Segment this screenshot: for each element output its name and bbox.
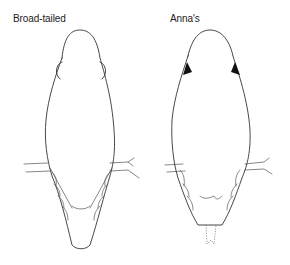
rump-line-left	[72, 206, 90, 209]
hummingbird-comparison-drawing	[0, 0, 290, 265]
broad-tailed-bird	[24, 30, 139, 249]
tail-dashed	[206, 225, 216, 244]
wing-left-feathers	[50, 168, 72, 220]
annas-bird	[165, 30, 272, 244]
shoulder-mark-right	[231, 62, 240, 75]
wing-right-feathers	[90, 168, 112, 220]
body-outline-left	[45, 30, 114, 249]
wing-feathers-right-bird	[180, 170, 240, 210]
shoulder-left-b	[100, 62, 106, 79]
rump-line-right	[200, 196, 222, 199]
body-outline-right	[172, 30, 250, 225]
perch-left	[24, 158, 139, 178]
